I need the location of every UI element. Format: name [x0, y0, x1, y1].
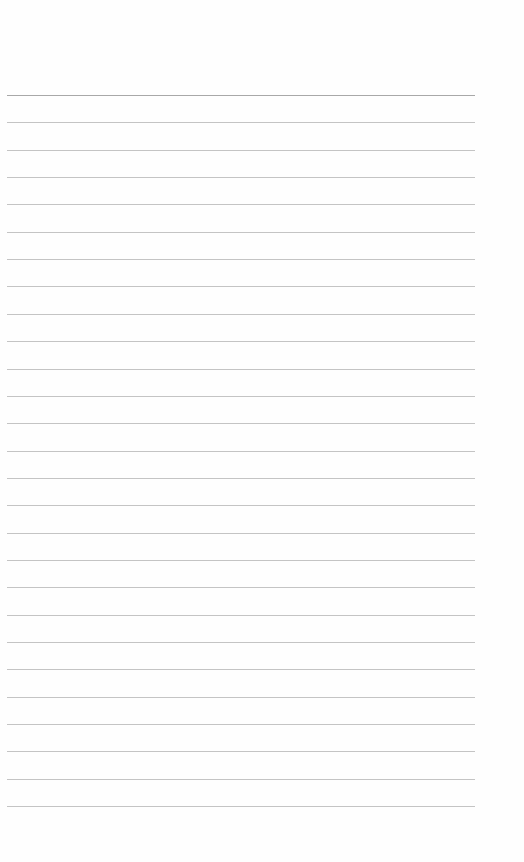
ruled-line [7, 314, 475, 315]
ruled-line [7, 259, 475, 260]
ruled-line [7, 396, 475, 397]
ruled-line [7, 587, 475, 588]
ruled-line [7, 204, 475, 205]
ruled-line [7, 369, 475, 370]
ruled-line [7, 806, 475, 807]
ruled-line [7, 560, 475, 561]
ruled-line [7, 642, 475, 643]
lined-paper-sheet [0, 0, 524, 862]
ruled-line [7, 177, 475, 178]
ruled-line [7, 95, 475, 96]
ruled-line [7, 232, 475, 233]
ruled-line [7, 533, 475, 534]
ruled-line [7, 505, 475, 506]
ruled-line [7, 341, 475, 342]
ruled-line [7, 615, 475, 616]
ruled-line [7, 423, 475, 424]
ruled-line [7, 451, 475, 452]
ruled-line [7, 286, 475, 287]
ruled-line [7, 150, 475, 151]
ruled-line [7, 724, 475, 725]
ruled-line [7, 669, 475, 670]
ruled-line [7, 779, 475, 780]
ruled-line [7, 122, 475, 123]
ruled-line [7, 478, 475, 479]
ruled-line [7, 697, 475, 698]
ruled-line [7, 751, 475, 752]
